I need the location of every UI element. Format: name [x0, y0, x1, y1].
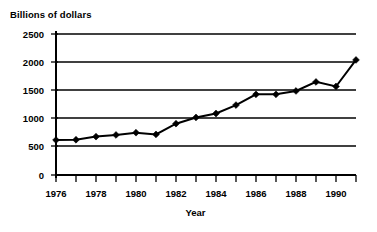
- data-point-1980: [133, 129, 140, 136]
- data-point-1976: [53, 137, 60, 144]
- x-tick-label-1982: 1982: [156, 188, 196, 199]
- data-point-1977: [73, 136, 80, 143]
- x-tick-label-1978: 1978: [76, 188, 116, 199]
- y-tick-label-0: 0: [8, 170, 44, 181]
- x-tick-label-1980: 1980: [116, 188, 156, 199]
- x-axis-title-wrap: Year: [0, 207, 377, 218]
- data-point-1978: [93, 133, 100, 140]
- x-tick-label-1984: 1984: [196, 188, 236, 199]
- data-markers: [53, 57, 360, 144]
- x-axis-title: Year: [185, 207, 205, 218]
- data-point-1987: [273, 91, 280, 98]
- data-point-1984: [213, 110, 220, 117]
- data-point-1989: [313, 79, 320, 86]
- data-point-1979: [113, 132, 120, 139]
- x-tick-label-1990: 1990: [316, 188, 356, 199]
- y-tick-label-2000: 2000: [8, 57, 44, 68]
- x-axis-ticks: [56, 175, 356, 182]
- data-point-1983: [193, 114, 200, 121]
- x-tick-label-1976: 1976: [36, 188, 76, 199]
- y-tick-label-500: 500: [8, 141, 44, 152]
- y-tick-label-2500: 2500: [8, 29, 44, 40]
- x-tick-label-1988: 1988: [276, 188, 316, 199]
- y-tick-label-1500: 1500: [8, 85, 44, 96]
- gridlines: [56, 34, 356, 146]
- data-line: [56, 60, 356, 140]
- x-tick-label-1986: 1986: [236, 188, 276, 199]
- data-point-1986: [253, 91, 260, 98]
- data-point-1988: [293, 88, 300, 95]
- y-tick-label-1000: 1000: [8, 113, 44, 124]
- chart-figure: Billions of dollars: [0, 0, 377, 232]
